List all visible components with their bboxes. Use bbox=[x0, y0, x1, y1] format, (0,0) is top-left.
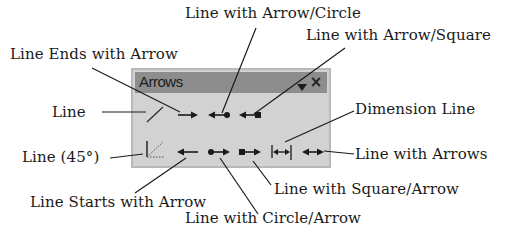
line-45-button[interactable] bbox=[143, 139, 169, 159]
dropdown-triangle-icon[interactable] bbox=[297, 78, 307, 88]
line-45-icon bbox=[143, 139, 169, 161]
line-with-circle-arrow-button[interactable] bbox=[206, 142, 232, 162]
callout-line-with-arrows: Line with Arrows bbox=[355, 145, 488, 163]
line-with-arrows-button[interactable] bbox=[300, 142, 326, 162]
callout-line: Line bbox=[52, 103, 86, 121]
callout-line-45: Line (45°) bbox=[22, 148, 99, 166]
line-tool-button[interactable] bbox=[143, 104, 169, 124]
line-with-square-arrow-button[interactable] bbox=[237, 142, 263, 162]
callout-line-starts-with-arrow: Line Starts with Arrow bbox=[30, 193, 206, 211]
double-arrow-icon bbox=[300, 142, 326, 162]
arrow-left-circle-icon bbox=[206, 105, 232, 125]
square-arrow-right-icon bbox=[237, 142, 263, 162]
callout-line-ends-with-arrow: Line Ends with Arrow bbox=[10, 45, 178, 63]
arrow-left-icon bbox=[175, 142, 201, 162]
arrows-toolbar-panel: Arrows × bbox=[131, 68, 331, 168]
line-icon bbox=[143, 104, 169, 124]
arrow-left-square-icon bbox=[237, 105, 263, 125]
line-starts-with-arrow-button[interactable] bbox=[175, 142, 201, 162]
callout-line-with-arrow-square: Line with Arrow/Square bbox=[306, 26, 491, 44]
dimension-line-icon bbox=[269, 141, 295, 163]
callout-dimension-line: Dimension Line bbox=[355, 100, 475, 118]
callout-line-with-circle-arrow: Line with Circle/Arrow bbox=[185, 209, 361, 227]
close-icon[interactable]: × bbox=[309, 74, 323, 90]
arrow-right-icon bbox=[175, 105, 201, 125]
panel-title: Arrows bbox=[139, 73, 183, 90]
circle-arrow-right-icon bbox=[206, 142, 232, 162]
panel-titlebar[interactable]: Arrows × bbox=[135, 72, 327, 93]
callout-line-with-arrow-circle: Line with Arrow/Circle bbox=[185, 4, 361, 22]
line-ends-with-arrow-button[interactable] bbox=[175, 105, 201, 125]
line-with-arrow-square-button[interactable] bbox=[237, 105, 263, 125]
line-with-arrow-circle-button[interactable] bbox=[206, 105, 232, 125]
dimension-line-button[interactable] bbox=[269, 141, 295, 161]
callout-line-with-square-arrow: Line with Square/Arrow bbox=[274, 180, 459, 198]
